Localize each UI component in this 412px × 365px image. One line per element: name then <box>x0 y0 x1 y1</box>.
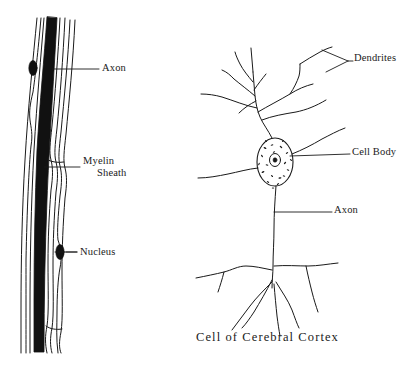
label-nucleus: Nucleus <box>80 246 115 258</box>
basal-dendrite-right-upper <box>292 128 345 154</box>
sheath-far-right <box>57 20 70 353</box>
dendrite-branch-right-upper <box>300 47 332 64</box>
dendrite-twig-apical-right <box>254 74 266 90</box>
figure-artwork <box>0 0 412 365</box>
leader-line-dendrites-lower <box>326 61 348 72</box>
axon-collateral-left <box>196 266 272 278</box>
basal-dendrite-left <box>198 168 258 178</box>
axon-terminal-down-center <box>274 284 280 336</box>
node-of-ranvier-lower <box>46 326 62 329</box>
label-dendrites: Dendrites <box>354 52 396 64</box>
axon-terminal-down-left <box>232 282 272 330</box>
figure-caption: Cell of Cerebral Cortex <box>196 330 339 345</box>
axon-collateral-branch-right <box>306 266 318 312</box>
dendrite-branch-right-lower <box>262 100 326 120</box>
left-fiber-nucleus-upper <box>29 61 37 76</box>
soma-nucleolus <box>273 158 277 163</box>
dendrite-branch-right-main <box>258 84 313 112</box>
right-neuron-axon <box>272 186 276 288</box>
dendrite-branch-upper-left <box>222 70 255 96</box>
apical-dendrite-upper <box>251 48 253 72</box>
leader-line-dendrites-upper <box>322 50 348 61</box>
neuron-anatomy-figure: Axon MyelinSheath Nucleus Dendrites Cell… <box>0 0 412 365</box>
axon-collateral-branch-left <box>218 272 224 292</box>
label-axon-right: Axon <box>334 204 358 216</box>
label-axon-left: Axon <box>102 62 126 74</box>
label-cell-body: Cell Body <box>352 146 396 158</box>
label-myelin-line1: Myelin <box>83 155 114 166</box>
apical-dendrite-trunk <box>253 72 272 138</box>
dendrite-twig-apical-left <box>235 52 253 82</box>
leader-line-cell-body <box>290 154 350 156</box>
label-myelin-line2: Sheath <box>83 167 126 179</box>
label-myelin-sheath: MyelinSheath <box>83 155 126 179</box>
dendrite-branch-left-long <box>201 94 257 108</box>
axon-terminal-down-right <box>276 282 299 328</box>
